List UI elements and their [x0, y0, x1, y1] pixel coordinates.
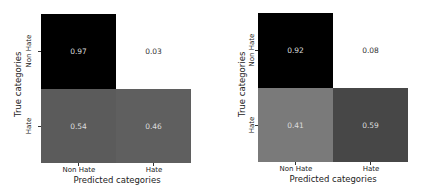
x-tick-label-hate: Hate — [146, 166, 163, 174]
cell-value: 0.08 — [362, 46, 379, 55]
cell-hate-hate: 0.59 — [333, 88, 408, 162]
cell-non-hate-hate: 0.08 — [333, 13, 408, 88]
x-tick-label-non-hate: Non Hate — [63, 166, 96, 174]
x-tick-label-non-hate: Non Hate — [280, 165, 313, 173]
cell-value: 0.41 — [287, 121, 304, 130]
cell-value: 0.54 — [70, 122, 87, 131]
confusion-matrix-right: True categories Non Hate Hate 0.92 0.08 … — [216, 0, 433, 196]
cell-non-hate-non-hate: 0.92 — [258, 13, 333, 88]
y-axis-label: True categories — [13, 57, 23, 117]
cell-value: 0.03 — [145, 47, 162, 56]
x-axis-label: Predicted categories — [73, 175, 160, 185]
cell-value: 0.59 — [362, 121, 379, 130]
cell-value: 0.97 — [70, 47, 87, 56]
cell-value: 0.92 — [287, 46, 304, 55]
y-tick-label-hate: Hate — [25, 106, 33, 146]
cell-hate-non-hate: 0.54 — [41, 89, 116, 163]
cell-non-hate-non-hate: 0.97 — [41, 14, 116, 89]
cell-hate-non-hate: 0.41 — [258, 88, 333, 162]
cell-non-hate-hate: 0.03 — [116, 14, 191, 89]
x-tick-label-hate: Hate — [363, 165, 380, 173]
y-tick-label-non-hate: Non Hate — [25, 31, 33, 71]
x-axis-label: Predicted categories — [289, 174, 376, 184]
y-axis-label: True categories — [237, 57, 247, 117]
confusion-matrix-left: True categories Non Hate Hate 0.97 0.03 … — [0, 0, 216, 196]
cell-value: 0.46 — [145, 122, 162, 131]
cell-hate-hate: 0.46 — [116, 89, 191, 163]
